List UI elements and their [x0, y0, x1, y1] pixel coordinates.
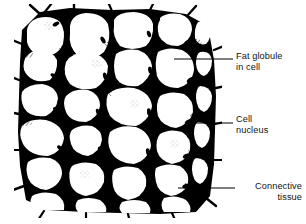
- adipose-tissue-figure: Fat globule in cell Cell nucleus Connect…: [0, 0, 306, 224]
- label-connective-tissue-line1: Connective: [238, 181, 302, 192]
- label-cell-nucleus-line1: Cell: [236, 114, 268, 125]
- label-fat-globule: Fat globule in cell: [236, 51, 283, 73]
- fat-cell: [114, 12, 154, 49]
- label-cell-nucleus-line2: nucleus: [236, 125, 268, 136]
- fat-cell: [70, 13, 110, 58]
- label-cell-nucleus: Cell nucleus: [236, 114, 268, 136]
- connective-tissue-matrix: [8, 2, 226, 222]
- label-fat-globule-line2: in cell: [236, 62, 283, 73]
- label-fat-globule-line1: Fat globule: [236, 51, 283, 62]
- label-connective-tissue: Connective tissue: [238, 181, 302, 203]
- label-connective-tissue-line2: tissue: [238, 192, 302, 203]
